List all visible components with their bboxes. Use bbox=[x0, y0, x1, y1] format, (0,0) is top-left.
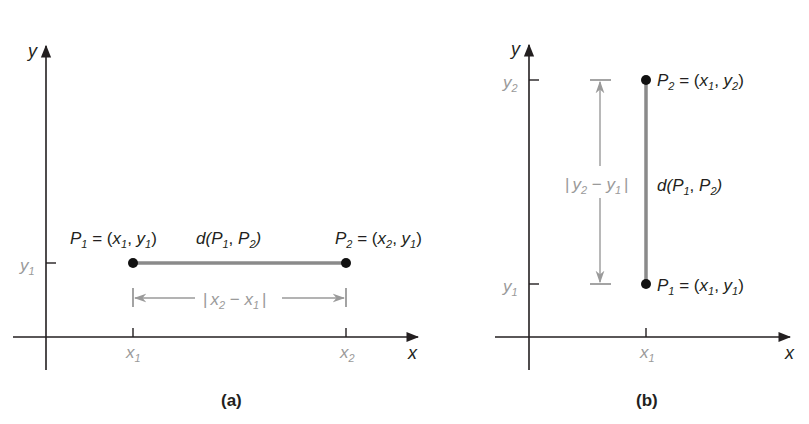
horizontal-dimension: |x2 − x1| bbox=[133, 288, 346, 311]
p2-label: P2 = (x1, y2) bbox=[657, 71, 744, 92]
caption-b: (b) bbox=[636, 391, 658, 410]
y2-tick-label: y2 bbox=[502, 73, 518, 94]
panel-a: y x y1 x1 x2 P1 = (x1, y1) d(P1, P2) P2 … bbox=[13, 41, 422, 410]
x2-tick-label: x2 bbox=[339, 343, 355, 364]
p1-label: P1 = (x1, y1) bbox=[70, 229, 157, 250]
dimension-label-y: |y2 − y1| bbox=[565, 175, 628, 196]
point-p2 bbox=[641, 75, 651, 85]
panel-b: y x y2 y1 x1 P2 = (x1, y2) P1 = (x1, y1)… bbox=[495, 39, 795, 410]
vertical-dimension: |y2 − y1| bbox=[565, 80, 628, 284]
distance-label: d(P1, P2) bbox=[657, 176, 722, 197]
y1-tick-label: y1 bbox=[502, 277, 518, 298]
distance-formula-diagram: y x y1 x1 x2 P1 = (x1, y1) d(P1, P2) P2 … bbox=[0, 0, 809, 424]
point-p1 bbox=[128, 258, 138, 268]
y1-tick-label: y1 bbox=[19, 256, 35, 277]
x1-tick-label: x1 bbox=[639, 343, 655, 364]
point-p1 bbox=[641, 279, 651, 289]
x-axis-label: x bbox=[784, 343, 795, 363]
point-p2 bbox=[341, 258, 351, 268]
p1-label: P1 = (x1, y1) bbox=[657, 276, 744, 297]
x-axis-label: x bbox=[407, 343, 418, 363]
caption-a: (a) bbox=[221, 391, 242, 410]
distance-label: d(P1, P2) bbox=[196, 229, 261, 250]
y-axis-label: y bbox=[509, 39, 521, 59]
p2-label: P2 = (x2, y1) bbox=[335, 229, 422, 250]
x1-tick-label: x1 bbox=[125, 343, 141, 364]
y-axis-label: y bbox=[26, 41, 38, 61]
dimension-label-x: |x2 − x1| bbox=[203, 290, 266, 311]
